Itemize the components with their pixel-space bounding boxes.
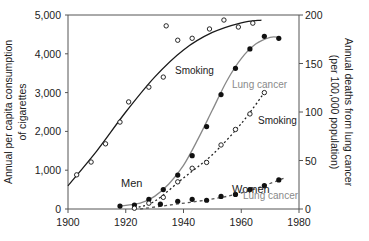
data-point-filled <box>276 36 281 41</box>
data-point-filled <box>190 153 195 158</box>
data-point-open <box>219 143 223 147</box>
data-point-open <box>190 166 194 170</box>
label-women-smoking: Smoking <box>258 115 297 126</box>
data-point-open <box>207 27 211 31</box>
data-point-filled <box>262 34 267 39</box>
markers <box>74 18 281 211</box>
y-tick-label-left: 2,000 <box>35 125 61 137</box>
y-tick-label-left: 3,000 <box>35 87 61 99</box>
data-point-open <box>233 127 237 131</box>
svg-text:Annual deaths from lung cancer: Annual deaths from lung cancer <box>343 38 355 187</box>
svg-text:Annual per capita consumption: Annual per capita consumption <box>2 40 14 184</box>
label-women-lung-cancer: Lung cancer <box>243 190 299 201</box>
data-point-filled <box>117 203 122 208</box>
data-point-filled <box>190 197 195 202</box>
series-line <box>68 20 261 186</box>
data-point-filled <box>161 187 166 192</box>
ylabel-right: Annual deaths from lung cancer (per 100,… <box>329 38 355 187</box>
series-line <box>120 37 279 206</box>
data-point-filled <box>175 172 180 177</box>
data-point-filled <box>204 124 209 129</box>
data-point-open <box>190 36 194 40</box>
data-point-open <box>204 160 208 164</box>
svg-text:(per 100,000 population): (per 100,000 population) <box>329 55 341 169</box>
data-point-open <box>132 206 136 210</box>
y-tick-label-left: 1,000 <box>35 164 61 176</box>
data-point-filled <box>233 66 238 71</box>
chart: 1900192019401960198001,0002,0003,0004,00… <box>0 0 369 241</box>
data-point-open <box>147 85 151 89</box>
data-point-open <box>251 21 255 25</box>
data-point-open <box>126 100 130 104</box>
x-tick-label: 1920 <box>114 216 138 228</box>
x-tick-label: 1960 <box>230 216 254 228</box>
data-point-open <box>262 90 266 94</box>
x-tick-label: 1940 <box>172 216 196 228</box>
data-point-filled <box>204 198 209 203</box>
data-point-open <box>222 18 226 22</box>
y-tick-label-left: 5,000 <box>35 9 61 21</box>
data-point-filled <box>175 199 180 204</box>
data-point-open <box>176 38 180 42</box>
data-point-open <box>176 180 180 184</box>
label-men-smoking: Smoking <box>175 65 214 76</box>
y-tick-label-right: 50 <box>305 155 317 167</box>
data-point-filled <box>158 202 163 207</box>
y-tick-label-right: 100 <box>305 106 323 118</box>
data-point-open <box>74 173 78 177</box>
data-point-open <box>147 201 151 205</box>
data-point-filled <box>218 92 223 97</box>
y-tick-label-left: 0 <box>55 203 61 215</box>
data-point-open <box>236 25 240 29</box>
x-tick-label: 1900 <box>56 216 80 228</box>
y-tick-label-right: 0 <box>305 203 311 215</box>
data-point-open <box>103 142 107 146</box>
y-tick-label-left: 4,000 <box>35 48 61 60</box>
data-point-filled <box>276 177 281 182</box>
y-tick-label-right: 200 <box>305 9 323 21</box>
label-men: Men <box>121 177 142 189</box>
data-point-open <box>248 112 252 116</box>
data-point-open <box>118 120 122 124</box>
data-point-filled <box>247 46 252 51</box>
data-point-open <box>89 160 93 164</box>
y-tick-label-right: 150 <box>305 58 323 70</box>
data-point-open <box>161 75 165 79</box>
data-point-open <box>164 24 168 28</box>
x-tick-label: 1980 <box>287 216 311 228</box>
ylabel-left: Annual per capita consumption of cigaret… <box>2 40 28 184</box>
label-men-lung-cancer: Lung cancer <box>232 79 288 90</box>
svg-text:of cigarettes: of cigarettes <box>16 83 28 140</box>
data-point-filled <box>218 194 223 199</box>
data-point-open <box>161 195 165 199</box>
